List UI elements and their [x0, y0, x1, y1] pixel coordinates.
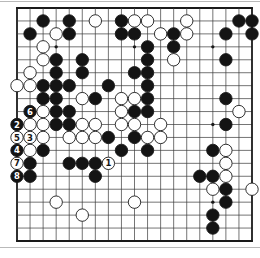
- black-stone: [220, 183, 232, 195]
- white-stone: [128, 196, 140, 208]
- white-stone: [141, 15, 153, 27]
- white-stone: [128, 15, 140, 27]
- white-stone: [220, 170, 232, 182]
- black-stone: [102, 79, 114, 91]
- white-stone: [76, 118, 88, 130]
- black-stone: [207, 209, 219, 221]
- black-stone: [63, 79, 75, 91]
- black-stone: [89, 157, 101, 169]
- black-stone: [141, 41, 153, 53]
- white-stone: [128, 92, 140, 104]
- white-stone: [24, 79, 36, 91]
- white-stone: [76, 209, 88, 221]
- black-stone: [63, 105, 75, 117]
- white-stone: [207, 183, 219, 195]
- black-stone: [37, 79, 49, 91]
- black-stone: [141, 79, 153, 91]
- black-stone: [50, 105, 62, 117]
- white-stone: [128, 118, 140, 130]
- black-stone: [141, 54, 153, 66]
- white-stone: [11, 79, 23, 91]
- black-stone: [63, 157, 75, 169]
- white-stone: [50, 196, 62, 208]
- white-stone: [24, 144, 36, 156]
- move-6-label: 6: [27, 107, 33, 117]
- move-3-label: 3: [27, 133, 33, 143]
- black-stone: [50, 79, 62, 91]
- black-stone: [207, 144, 219, 156]
- black-stone: [63, 28, 75, 40]
- white-stone: [154, 28, 166, 40]
- black-stone: [37, 15, 49, 27]
- black-stone: [76, 54, 88, 66]
- white-stone: [50, 28, 62, 40]
- black-stone: [115, 28, 127, 40]
- black-stone: [50, 92, 62, 104]
- hoshi-point: [133, 45, 136, 48]
- white-stone: [220, 144, 232, 156]
- black-stone: [89, 170, 101, 182]
- black-stone: [115, 144, 127, 156]
- black-stone: [141, 92, 153, 104]
- white-stone: [37, 118, 49, 130]
- black-stone: [220, 92, 232, 104]
- white-stone: [76, 131, 88, 143]
- white-stone: [37, 105, 49, 117]
- black-stone: [37, 144, 49, 156]
- black-stone: [220, 28, 232, 40]
- go-diagram: 12345678: [0, 0, 260, 258]
- black-stone: [50, 54, 62, 66]
- black-stone: [128, 67, 140, 79]
- black-stone: [128, 105, 140, 117]
- white-stone: [246, 183, 258, 195]
- black-stone: [102, 131, 114, 143]
- black-stone: [24, 170, 36, 182]
- black-stone: [50, 118, 62, 130]
- black-stone: [63, 118, 75, 130]
- white-stone: [89, 15, 101, 27]
- black-stone: [128, 131, 140, 143]
- black-stone: [76, 67, 88, 79]
- white-stone: [181, 28, 193, 40]
- black-stone: [24, 28, 36, 40]
- white-stone: [24, 67, 36, 79]
- white-stone: [141, 131, 153, 143]
- move-4-label: 4: [14, 145, 20, 155]
- move-1-label: 1: [105, 158, 111, 168]
- black-stone: [50, 67, 62, 79]
- move-8-label: 8: [14, 171, 20, 181]
- black-stone: [233, 15, 245, 27]
- black-stone: [37, 92, 49, 104]
- white-stone: [233, 105, 245, 117]
- black-stone: [246, 15, 258, 27]
- white-stone: [154, 118, 166, 130]
- black-stone: [76, 157, 88, 169]
- black-stone: [194, 170, 206, 182]
- black-stone: [167, 41, 179, 53]
- white-stone: [167, 54, 179, 66]
- move-5-label: 5: [14, 133, 20, 143]
- white-stone: [181, 15, 193, 27]
- black-stone: [115, 15, 127, 27]
- black-stone: [220, 118, 232, 130]
- black-stone: [63, 15, 75, 27]
- white-stone: [63, 131, 75, 143]
- white-stone: [154, 131, 166, 143]
- white-stone: [37, 131, 49, 143]
- white-stone: [89, 131, 101, 143]
- white-stone: [220, 157, 232, 169]
- white-stone: [24, 118, 36, 130]
- white-stone: [37, 41, 49, 53]
- black-stone: [128, 28, 140, 40]
- white-stone: [37, 54, 49, 66]
- hoshi-point: [211, 200, 214, 203]
- white-stone: [115, 105, 127, 117]
- white-stone: [115, 92, 127, 104]
- black-stone: [207, 222, 219, 234]
- black-stone: [167, 28, 179, 40]
- black-stone: [24, 157, 36, 169]
- black-stone: [141, 144, 153, 156]
- move-2-label: 2: [14, 120, 20, 130]
- black-stone: [207, 170, 219, 182]
- move-7-label: 7: [14, 158, 20, 168]
